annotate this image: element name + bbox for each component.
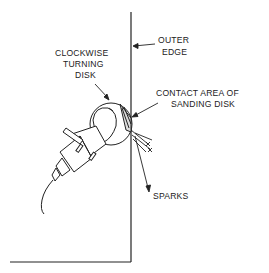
sanding-disk-diagram: OUTER EDGE CLOCKWISE TURNING DISK CONTAC… (0, 0, 269, 273)
label-clockwise-1: CLOCKWISE (55, 48, 108, 58)
label-outer-edge-1: OUTER (158, 35, 189, 45)
label-contact-area-1: CONTACT AREA OF (156, 88, 239, 98)
sparks (131, 130, 152, 152)
label-contact-area-2: SANDING DISK (171, 99, 235, 109)
label-outer-edge-2: EDGE (162, 47, 187, 57)
label-sparks: SPARKS (153, 191, 188, 201)
label-clockwise-3: DISK (75, 70, 96, 80)
label-clockwise-2: TURNING (63, 59, 104, 69)
power-cord (41, 180, 53, 214)
